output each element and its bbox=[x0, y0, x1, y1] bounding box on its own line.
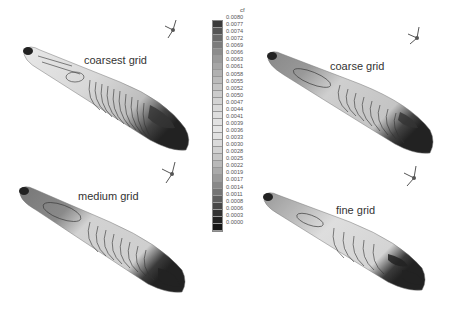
colorbar-tick-label: 0.0008 bbox=[226, 198, 243, 205]
colorbar-swatch bbox=[213, 35, 222, 42]
colorbar-swatch bbox=[213, 189, 222, 196]
colorbar-swatch bbox=[213, 140, 222, 147]
colorbar-swatch bbox=[213, 210, 222, 217]
axis-triad-icon bbox=[160, 162, 182, 184]
panel-medium-grid: medium grid bbox=[0, 160, 205, 315]
colorbar-swatch bbox=[213, 154, 222, 161]
colorbar-tick-label: 0.0063 bbox=[226, 56, 243, 63]
colorbar-tick-label: 0.0055 bbox=[226, 78, 243, 85]
colorbar-swatch bbox=[213, 84, 222, 91]
colorbar-swatch bbox=[213, 63, 222, 70]
colorbar-tick-label: 0.0080 bbox=[226, 14, 243, 21]
colorbar-swatch bbox=[213, 203, 222, 210]
colorbar-tick-label: 0.0033 bbox=[226, 134, 243, 141]
colorbar-tick-label: 0.0019 bbox=[226, 169, 243, 176]
colorbar-swatch bbox=[213, 56, 222, 63]
colorbar-tick-label: 0.0044 bbox=[226, 106, 243, 113]
colorbar-tick-label: 0.0025 bbox=[226, 155, 243, 162]
colorbar-tick-label: 0.0006 bbox=[226, 205, 243, 212]
colorbar-swatch bbox=[213, 196, 222, 203]
panel-coarsest-grid: coarsest grid bbox=[0, 0, 205, 160]
colorbar-tick-label: 0.0074 bbox=[226, 28, 243, 35]
blade-contour-coarse bbox=[250, 0, 449, 160]
colorbar-swatch bbox=[213, 105, 222, 112]
colorbar-swatch bbox=[213, 147, 222, 154]
colorbar-tick-label: 0.0036 bbox=[226, 127, 243, 134]
colorbar-tick-label: 0.0058 bbox=[226, 71, 243, 78]
colorbar-tick-label: 0.0050 bbox=[226, 92, 243, 99]
colorbar-tick-label: 0.0011 bbox=[226, 191, 243, 198]
colorbar-tick-label: 0.0061 bbox=[226, 63, 243, 70]
colorbar-tick-label: 0.0028 bbox=[226, 148, 243, 155]
axis-triad-icon bbox=[405, 26, 427, 48]
colorbar-swatch bbox=[213, 98, 222, 105]
axis-triad-icon bbox=[162, 18, 184, 40]
colorbar-swatch bbox=[213, 217, 222, 224]
panel-coarse-grid: coarse grid bbox=[250, 0, 449, 160]
axis-triad-icon bbox=[402, 166, 424, 188]
colorbar-tick-label: 0.0003 bbox=[226, 212, 243, 219]
colorbar-swatch bbox=[213, 42, 222, 49]
colorbar-swatch bbox=[213, 70, 222, 77]
colorbar-tick-label: 0.0030 bbox=[226, 141, 243, 148]
colorbar-swatch bbox=[213, 168, 222, 175]
colorbar-tick-labels: 0.00800.00770.00740.00720.00690.00660.00… bbox=[226, 14, 243, 226]
colorbar-swatch bbox=[213, 175, 222, 182]
panel-fine-grid: fine grid bbox=[250, 160, 449, 315]
colorbar-tick-label: 0.0077 bbox=[226, 21, 243, 28]
colorbar-swatch bbox=[213, 112, 222, 119]
colorbar-swatch bbox=[213, 126, 222, 133]
colorbar-tick-label: 0.0052 bbox=[226, 85, 243, 92]
colorbar-tick-label: 0.0069 bbox=[226, 42, 243, 49]
grid-label: medium grid bbox=[78, 190, 139, 202]
colorbar-tick-label: 0.0041 bbox=[226, 113, 243, 120]
colorbar-tick-label: 0.0022 bbox=[226, 162, 243, 169]
colorbar-swatch bbox=[213, 182, 222, 189]
colorbar-swatch bbox=[213, 49, 222, 56]
colorbar-title: cf bbox=[240, 7, 245, 13]
colorbar-tick-label: 0.0017 bbox=[226, 176, 243, 183]
colorbar-swatch bbox=[213, 21, 222, 28]
colorbar-tick-label: 0.0047 bbox=[226, 99, 243, 106]
colorbar-swatch bbox=[213, 28, 222, 35]
colorbar-tick-label: 0.0000 bbox=[226, 219, 243, 226]
colorbar-tick-label: 0.0066 bbox=[226, 49, 243, 56]
colorbar-tick-label: 0.0014 bbox=[226, 184, 243, 191]
grid-label: fine grid bbox=[336, 204, 375, 216]
colorbar-swatch bbox=[213, 161, 222, 168]
colorbar-swatch bbox=[213, 77, 222, 84]
colorbar-swatch bbox=[213, 224, 222, 231]
colorbar-swatch bbox=[213, 91, 222, 98]
grid-label: coarsest grid bbox=[84, 54, 147, 66]
colorbar-swatch bbox=[213, 133, 222, 140]
colorbar-tick-label: 0.0039 bbox=[226, 120, 243, 127]
colorbar-legend bbox=[212, 20, 223, 232]
grid-label: coarse grid bbox=[330, 60, 384, 72]
colorbar-swatch bbox=[213, 119, 222, 126]
colorbar-tick-label: 0.0072 bbox=[226, 35, 243, 42]
